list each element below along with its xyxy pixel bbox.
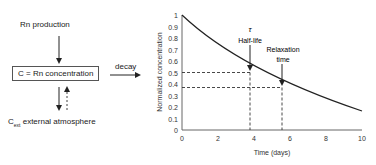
svg-text:0.3: 0.3 bbox=[168, 93, 178, 100]
svg-text:Half-life: Half-life bbox=[238, 37, 262, 44]
svg-text:0.2: 0.2 bbox=[168, 104, 178, 111]
decay-label: decay bbox=[115, 62, 136, 71]
svg-text:2: 2 bbox=[216, 135, 220, 142]
concentration-box: C = Rn concentration bbox=[12, 66, 99, 81]
svg-text:time: time bbox=[276, 56, 289, 63]
svg-text:Time (days): Time (days) bbox=[254, 149, 291, 157]
svg-text:0.6: 0.6 bbox=[168, 58, 178, 65]
svg-text:4: 4 bbox=[252, 135, 256, 142]
svg-text:8: 8 bbox=[324, 135, 328, 142]
svg-text:Normalized concentration: Normalized concentration bbox=[156, 32, 163, 111]
external-atmosphere-label: Cext external atmosphere bbox=[8, 117, 96, 128]
svg-text:Relaxation: Relaxation bbox=[266, 46, 299, 53]
svg-text:0: 0 bbox=[174, 127, 178, 134]
svg-text:10: 10 bbox=[358, 135, 366, 142]
svg-text:0: 0 bbox=[180, 135, 184, 142]
svg-text:0.1: 0.1 bbox=[168, 116, 178, 123]
svg-text:τ: τ bbox=[249, 25, 253, 34]
svg-text:1: 1 bbox=[174, 12, 178, 19]
svg-text:0.4: 0.4 bbox=[168, 81, 178, 88]
svg-text:0.5: 0.5 bbox=[168, 70, 178, 77]
decay-chart: 00.1 0.20.3 0.40.5 0.60.7 0.80.9 1 02 46… bbox=[150, 0, 376, 165]
svg-text:6: 6 bbox=[288, 135, 292, 142]
svg-text:0.7: 0.7 bbox=[168, 47, 178, 54]
svg-text:0.8: 0.8 bbox=[168, 35, 178, 42]
svg-text:0.9: 0.9 bbox=[168, 24, 178, 31]
